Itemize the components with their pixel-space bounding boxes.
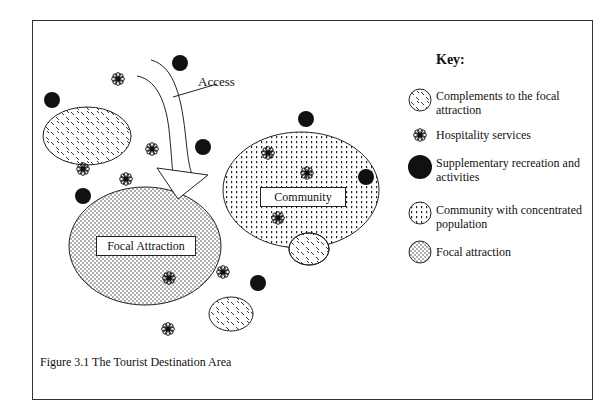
key-item-focal: Focal attraction (436, 245, 596, 259)
key-item-supplementary: Supplementary recreation and activities (436, 156, 596, 184)
complements-ellipse-bottom (209, 297, 253, 331)
community-label: Community (260, 187, 346, 207)
key-item-community: Community with concentrated population (436, 203, 596, 231)
access-label: Access (198, 74, 235, 89)
key-symbols (408, 89, 432, 263)
key-item-hospitality: Hospitality services (436, 128, 596, 142)
complements-ellipse-community (289, 233, 329, 265)
complements-ellipse-topleft (43, 107, 131, 165)
key-item-complements: Complements to the focal attraction (436, 89, 596, 117)
figure-caption: Figure 3.1 The Tourist Destination Area (40, 355, 231, 370)
key-title: Key: (436, 52, 465, 68)
focal-attraction-label: Focal Attraction (96, 236, 196, 256)
